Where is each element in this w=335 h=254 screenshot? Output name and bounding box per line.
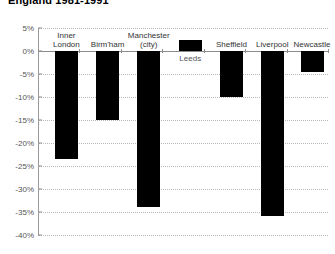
y-axis-tick-label: -20% xyxy=(0,139,34,148)
x-axis-tick-mark xyxy=(162,49,163,53)
y-axis-tick-mark xyxy=(38,143,42,144)
gridline xyxy=(38,189,328,190)
bar xyxy=(220,51,243,97)
bar-chart: England 1981-1991 5%0%-5%-10%-15%-20%-25… xyxy=(0,0,335,254)
y-axis-tick-mark xyxy=(38,189,42,190)
x-axis-tick-mark xyxy=(328,49,329,53)
bar xyxy=(137,51,160,207)
x-axis-tick-mark xyxy=(204,49,205,53)
category-label: Manchester (city) xyxy=(118,31,180,49)
y-axis-tick-mark xyxy=(38,166,42,167)
y-axis-tick-mark xyxy=(38,120,42,121)
bar xyxy=(96,51,119,120)
x-axis-tick-mark xyxy=(121,49,122,53)
gridline xyxy=(38,51,328,52)
y-axis-tick-label: 5% xyxy=(0,24,34,33)
y-axis-tick-label: -5% xyxy=(0,70,34,79)
category-label: Newcastle xyxy=(281,40,335,49)
gridline xyxy=(38,143,328,144)
y-axis-tick-label: 0% xyxy=(0,47,34,56)
bar xyxy=(55,51,78,159)
gridline xyxy=(38,120,328,121)
y-axis-tick-label: -10% xyxy=(0,93,34,102)
x-axis-tick-mark xyxy=(79,49,80,53)
x-axis-tick-mark xyxy=(287,49,288,53)
gridline xyxy=(38,28,328,29)
y-axis-tick-label: -35% xyxy=(0,208,34,217)
gridline xyxy=(38,166,328,167)
x-axis-tick-mark xyxy=(245,49,246,53)
y-axis-tick-mark xyxy=(38,235,42,236)
y-axis-tick-mark xyxy=(38,97,42,98)
y-axis-tick-mark xyxy=(38,74,42,75)
gridline xyxy=(38,74,328,75)
gridline xyxy=(38,212,328,213)
chart-title: England 1981-1991 xyxy=(8,0,109,6)
bar xyxy=(261,51,284,216)
gridline xyxy=(38,97,328,98)
y-axis-tick-label: -25% xyxy=(0,162,34,171)
bar xyxy=(301,51,324,72)
bar xyxy=(179,40,202,52)
y-axis-tick-mark xyxy=(38,28,42,29)
x-axis-tick-mark xyxy=(38,49,39,53)
y-axis-tick-label: -15% xyxy=(0,116,34,125)
gridline xyxy=(38,235,328,236)
y-axis-tick-mark xyxy=(38,212,42,213)
y-axis-tick-label: -40% xyxy=(0,231,34,240)
y-axis-tick-label: -30% xyxy=(0,185,34,194)
category-label: Leeds xyxy=(159,54,221,63)
